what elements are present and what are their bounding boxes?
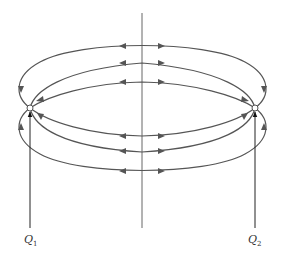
arrow-right-icon (158, 133, 165, 139)
arrow-right-icon (158, 168, 165, 174)
arrow-left-icon (119, 148, 126, 154)
arrow-right-icon (158, 79, 165, 85)
arrow-icon (241, 96, 249, 102)
arrow-left-icon (119, 133, 126, 139)
label-q2-sub: 2 (257, 240, 261, 248)
label-q1-main: Q (24, 233, 33, 246)
field-line-diagram (0, 0, 281, 257)
charge-q2 (252, 105, 258, 111)
label-q2-main: Q (248, 233, 257, 246)
label-q1-sub: 1 (33, 240, 37, 248)
charge-q1 (27, 105, 33, 111)
arrow-left-icon (119, 43, 126, 49)
arrow-left-icon (119, 79, 126, 85)
arrow-right-icon (158, 148, 165, 154)
arrow-right-icon (158, 43, 165, 49)
arrow-left-icon (119, 168, 126, 174)
label-q2: Q2 (248, 233, 262, 248)
label-q1: Q1 (24, 233, 38, 248)
